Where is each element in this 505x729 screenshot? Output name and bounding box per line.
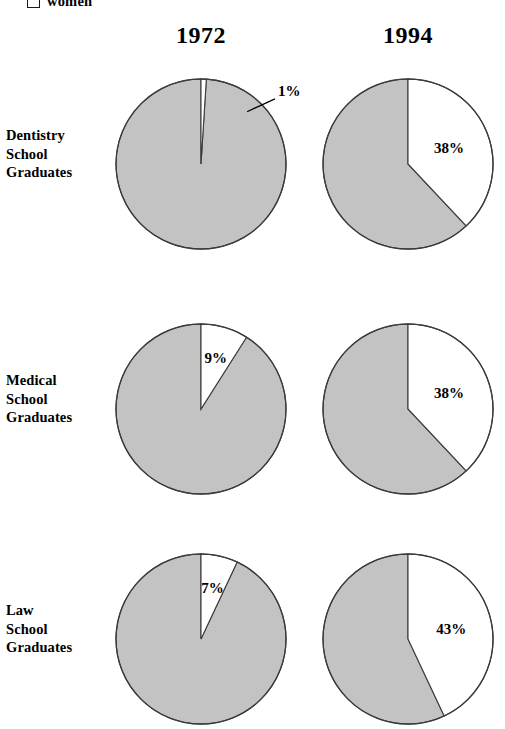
row-label-line: Graduates bbox=[6, 408, 110, 427]
pie-chart-medical-1972: 9% bbox=[111, 319, 291, 499]
row-label-line: Law bbox=[6, 601, 110, 620]
pie-value-label: 43% bbox=[436, 621, 466, 637]
pie-value-label: 38% bbox=[434, 140, 464, 156]
legend-label-women: women bbox=[47, 0, 92, 10]
empty-square-icon bbox=[27, 0, 40, 8]
row-label-line: Graduates bbox=[6, 163, 110, 182]
row-label-line: School bbox=[6, 145, 110, 164]
column-header-1994: 1994 bbox=[318, 22, 498, 49]
pie-chart-law-1994: 43% bbox=[318, 549, 498, 729]
legend: women bbox=[27, 0, 92, 10]
row-label-line: School bbox=[6, 620, 110, 639]
pie-chart-medical-1994: 38% bbox=[318, 319, 498, 499]
row-label-line: School bbox=[6, 390, 110, 409]
pie-value-label: 38% bbox=[434, 385, 464, 401]
row-label-line: Medical bbox=[6, 371, 110, 390]
row-label-medical: Medical School Graduates bbox=[6, 371, 110, 427]
pie-chart-dentistry-1972: 1% bbox=[111, 74, 291, 254]
row-label-law: Law School Graduates bbox=[6, 601, 110, 657]
row-label-line: Dentistry bbox=[6, 126, 110, 145]
column-header-1972: 1972 bbox=[111, 22, 291, 49]
pie-value-label: 7% bbox=[201, 580, 224, 596]
pie-value-label: 1% bbox=[278, 83, 301, 99]
row-label-dentistry: Dentistry School Graduates bbox=[6, 126, 110, 182]
row-label-line: Graduates bbox=[6, 638, 110, 657]
pie-chart-dentistry-1994: 38% bbox=[318, 74, 498, 254]
pie-value-label: 9% bbox=[204, 350, 227, 366]
pie-chart-law-1972: 7% bbox=[111, 549, 291, 729]
